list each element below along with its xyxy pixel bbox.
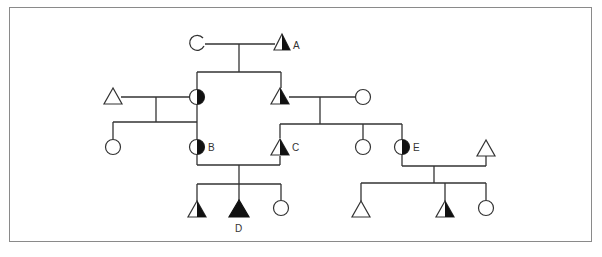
male-unaffected-icon <box>352 201 370 217</box>
female-unaffected-icon <box>274 201 289 216</box>
male-affected-icon <box>229 200 249 217</box>
female-unaffected-icon <box>356 90 371 105</box>
female-half-affected-icon <box>395 140 410 155</box>
pedigree-lines <box>113 44 486 201</box>
female-unaffected-icon <box>356 140 371 155</box>
label-a: A <box>293 40 300 51</box>
male-unaffected-icon <box>477 140 495 156</box>
female-half-affected-icon <box>190 140 205 155</box>
male-half-affected-icon <box>188 201 206 217</box>
female-unaffected-icon <box>106 140 121 155</box>
male-half-affected-icon <box>271 88 289 104</box>
female-open-circle-icon <box>190 35 204 50</box>
label-d: D <box>235 223 242 234</box>
label-c: C <box>292 142 299 153</box>
male-half-affected-icon <box>274 34 290 50</box>
label-e: E <box>413 142 420 153</box>
pedigree-chart: A B C E D <box>0 0 602 257</box>
male-half-affected-icon <box>436 201 454 217</box>
male-half-affected-icon <box>271 139 289 155</box>
male-unaffected-icon <box>104 88 122 104</box>
female-unaffected-icon <box>479 201 494 216</box>
female-half-affected-icon <box>190 90 205 105</box>
label-b: B <box>208 142 215 153</box>
